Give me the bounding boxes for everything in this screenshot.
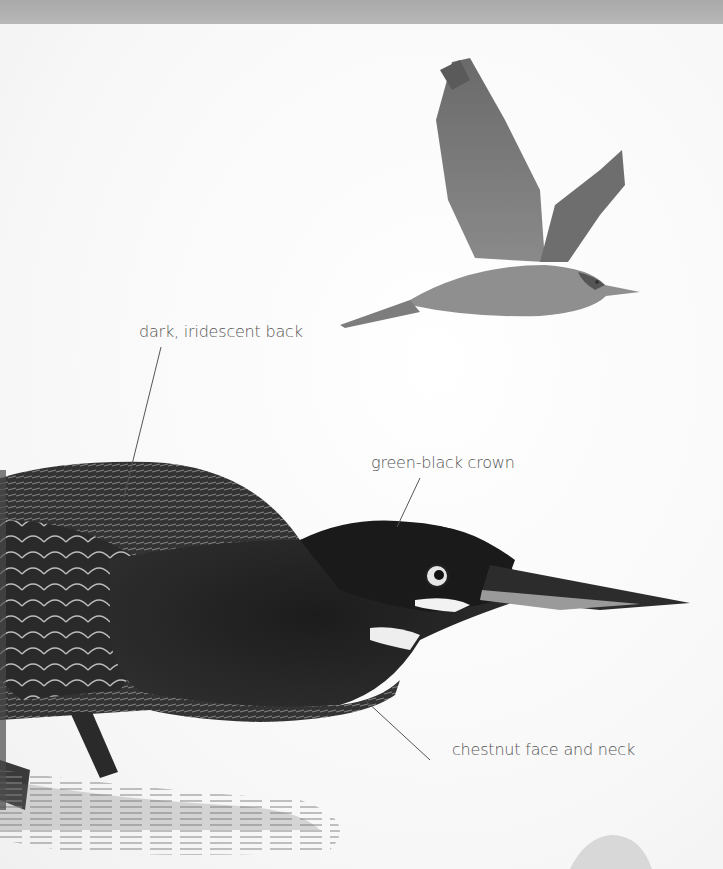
standing-heron xyxy=(0,462,690,855)
leader-line-neck xyxy=(365,700,430,760)
egg-shape xyxy=(570,835,652,869)
leader-line-crown xyxy=(397,478,420,527)
label-dark-iridescent-back: dark, iridescent back xyxy=(139,322,303,341)
label-chestnut-face-neck: chestnut face and neck xyxy=(452,740,635,759)
heron-illustration xyxy=(0,0,723,869)
flying-heron xyxy=(340,58,640,328)
label-green-black-crown: green-black crown xyxy=(371,453,515,472)
